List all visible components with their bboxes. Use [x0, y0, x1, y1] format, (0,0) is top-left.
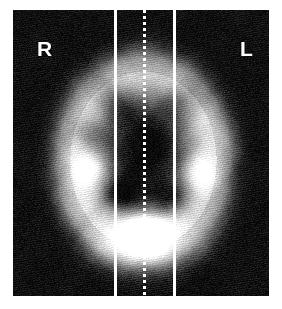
orientation-label-left: L [240, 38, 253, 59]
midline-marker[interactable] [143, 10, 146, 296]
roi-boundary-line-right[interactable] [173, 10, 176, 296]
scan-image-panel[interactable]: R L [13, 10, 269, 296]
orientation-label-right: R [37, 38, 52, 59]
brain-scan-viewer: R L [0, 0, 282, 309]
roi-boundary-line-left[interactable] [114, 10, 117, 296]
